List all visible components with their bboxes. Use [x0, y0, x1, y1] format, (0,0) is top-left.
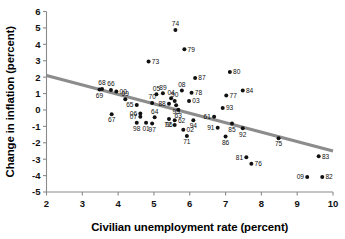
- x-tick-label: 8: [259, 198, 264, 209]
- data-point-83: [317, 154, 321, 158]
- data-point-label-76: 76: [255, 160, 263, 167]
- data-point-89: [161, 91, 165, 95]
- data-point-62: [173, 118, 177, 122]
- data-point-87: [193, 76, 197, 80]
- data-point-label-88: 88: [158, 100, 166, 107]
- data-point-label-78: 78: [195, 89, 203, 96]
- data-point-label-79: 79: [188, 46, 196, 53]
- data-point-02: [181, 128, 185, 132]
- data-point-label-07: 07: [130, 113, 138, 120]
- y-tick-label: -4: [32, 170, 41, 181]
- data-point-82: [320, 175, 324, 179]
- data-point-03: [187, 99, 191, 103]
- x-axis-title: Civilian unemployment rate (percent): [91, 221, 288, 233]
- data-point-78: [190, 91, 194, 95]
- data-point-label-09: 09: [297, 173, 305, 180]
- data-point-label-03: 03: [192, 97, 200, 104]
- x-tick-label: 5: [151, 198, 157, 209]
- y-tick-label: 2: [35, 72, 40, 83]
- data-point-label-66: 66: [107, 80, 115, 87]
- data-point-label-98: 98: [133, 125, 141, 132]
- data-point-label-83: 83: [322, 153, 330, 160]
- data-point-00: [114, 90, 118, 94]
- data-point-label-87: 87: [198, 74, 206, 81]
- data-point-73: [147, 60, 151, 64]
- y-tick-label: 3: [35, 55, 40, 66]
- x-tick-label: 9: [295, 198, 300, 209]
- data-point-label-77: 77: [229, 92, 237, 99]
- data-point-label-82: 82: [325, 173, 333, 180]
- data-point-label-75: 75: [275, 140, 283, 147]
- data-point-label-65: 65: [126, 101, 134, 108]
- scatter-chart: 6543210-1-2-3-4-523456789107479738087686…: [0, 0, 345, 239]
- x-tick-label: 6: [187, 198, 192, 209]
- data-point-66: [109, 88, 113, 92]
- data-point-label-62: 62: [178, 117, 186, 124]
- y-tick-label: 5: [35, 22, 41, 33]
- data-point-79: [182, 47, 186, 51]
- data-point-label-68: 68: [98, 79, 106, 86]
- y-tick-label: 4: [35, 39, 41, 50]
- data-point-08: [180, 89, 184, 93]
- x-tick-label: 2: [44, 198, 49, 209]
- data-point-label-61: 61: [204, 113, 212, 120]
- chart-canvas: 6543210-1-2-3-4-523456789107479738087686…: [0, 0, 345, 239]
- data-point-label-70: 70: [148, 93, 156, 100]
- data-point-label-73: 73: [152, 58, 160, 65]
- y-tick-label: 0: [35, 104, 40, 115]
- y-tick-label: -3: [32, 154, 40, 165]
- data-point-77: [224, 94, 228, 98]
- y-tick-label: -1: [32, 121, 41, 132]
- y-axis-title: Change in inflation (percent): [4, 26, 16, 178]
- data-point-81: [244, 155, 248, 159]
- data-point-90: [173, 99, 177, 103]
- data-point-label-80: 80: [233, 68, 241, 75]
- data-point-label-93: 93: [226, 104, 234, 111]
- data-point-label-81: 81: [236, 154, 244, 161]
- data-point-09: [305, 175, 309, 179]
- x-tick-label: 7: [223, 198, 228, 209]
- data-point-93: [221, 106, 225, 110]
- data-point-label-71: 71: [183, 138, 191, 145]
- data-point-label-67: 67: [108, 116, 116, 123]
- data-point-label-99: 99: [122, 90, 130, 97]
- data-point-label-08: 08: [178, 81, 186, 88]
- data-point-74: [173, 28, 177, 32]
- data-point-07: [138, 115, 142, 119]
- x-tick-label: 3: [80, 198, 85, 209]
- data-point-label-72: 72: [164, 121, 172, 128]
- data-point-label-86: 86: [222, 139, 230, 146]
- data-point-label-90: 90: [171, 91, 179, 98]
- data-point-label-92: 92: [239, 131, 247, 138]
- data-point-label-74: 74: [172, 20, 180, 27]
- data-point-label-84: 84: [246, 87, 254, 94]
- y-tick-label: 6: [35, 6, 40, 17]
- data-point-label-89: 89: [159, 84, 167, 91]
- data-point-88: [167, 102, 171, 106]
- data-point-64: [153, 115, 157, 119]
- x-tick-label: 10: [328, 198, 339, 209]
- data-point-65: [135, 103, 139, 107]
- y-tick-label: -2: [32, 137, 40, 148]
- data-point-72: [173, 123, 177, 127]
- data-point-70: [150, 101, 154, 105]
- data-point-label-97: 97: [148, 126, 156, 133]
- data-point-label-64: 64: [151, 108, 159, 115]
- x-tick-label: 4: [115, 198, 121, 209]
- y-tick-label: 1: [35, 88, 41, 99]
- data-point-80: [228, 70, 232, 74]
- y-tick-label: -5: [32, 186, 41, 197]
- data-point-label-91: 91: [207, 124, 215, 131]
- data-point-84: [241, 89, 245, 93]
- data-point-76: [249, 162, 253, 166]
- data-point-label-85: 85: [228, 126, 236, 133]
- data-point-label-69: 69: [96, 92, 104, 99]
- data-point-91: [216, 126, 220, 130]
- data-point-label-02: 02: [187, 126, 195, 133]
- data-point-61: [212, 115, 216, 119]
